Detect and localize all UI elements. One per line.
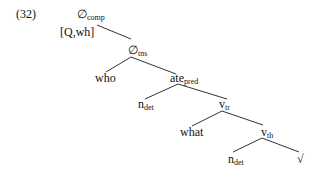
branch-vtr-what xyxy=(192,111,222,126)
example-number: (32) xyxy=(16,8,36,20)
node-pred: atepred xyxy=(170,72,198,84)
node-v-tr: vtr xyxy=(219,98,230,110)
branch-tns-who xyxy=(106,57,131,72)
branch-comp-tns xyxy=(97,25,131,39)
node-who: who xyxy=(95,72,116,84)
node-v-th: vth xyxy=(261,126,273,138)
node-n-det-1: ndet xyxy=(138,98,154,110)
node-n-det-2: ndet xyxy=(228,153,244,165)
node-tns: ∅tns xyxy=(128,44,147,56)
node-comp: ∅comp xyxy=(77,8,105,20)
feature-q-wh: [Q,wh] xyxy=(60,26,94,38)
branch-vtr-vth xyxy=(222,111,263,125)
branch-vth-root xyxy=(262,138,299,152)
branch-pred-n xyxy=(145,84,178,99)
node-what: what xyxy=(180,126,203,138)
tree-branches xyxy=(0,0,320,169)
branch-vth-n xyxy=(233,138,262,152)
node-root-symbol: √ xyxy=(297,153,304,165)
